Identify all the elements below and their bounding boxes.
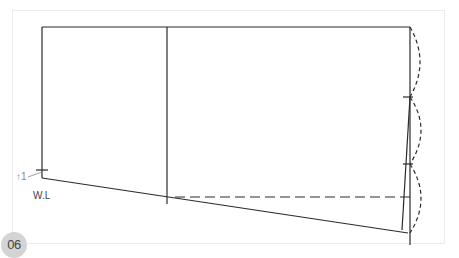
waist-line-label: W.L [33, 190, 50, 201]
dashed-arc-2 [410, 97, 421, 164]
step-number-badge: 06 [1, 232, 27, 258]
label-pointer [28, 172, 42, 177]
up-one-marker: ↑1 [16, 171, 27, 182]
dashed-arc-3 [410, 164, 421, 233]
dashed-arc-1 [410, 27, 420, 97]
waist-line [42, 178, 408, 233]
